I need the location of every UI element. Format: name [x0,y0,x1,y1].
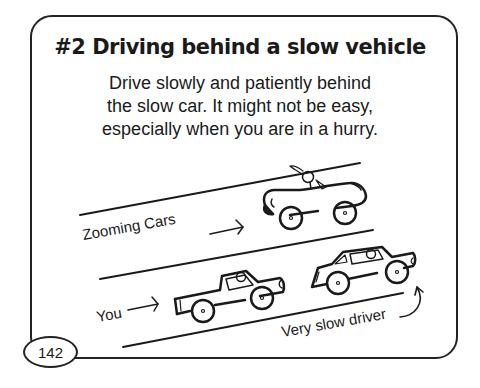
arrow-icon-zooming [210,220,243,234]
sedan-icon [312,247,415,294]
page-number-badge: 142 [23,336,78,368]
road-line-top [80,163,360,215]
road-illustration [0,0,480,388]
pickup-truck-icon [175,271,284,322]
arrow-icon-you [128,297,158,311]
sports-car-icon [264,166,366,229]
page-number: 142 [38,344,63,361]
curved-arrow-icon [400,287,423,317]
road-line-second [100,230,373,279]
